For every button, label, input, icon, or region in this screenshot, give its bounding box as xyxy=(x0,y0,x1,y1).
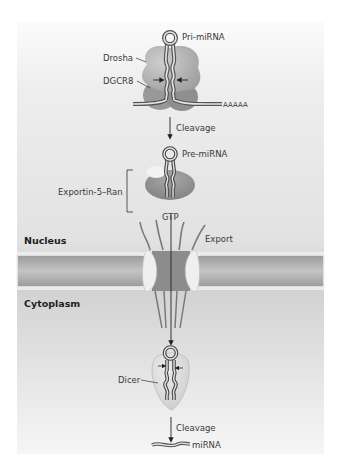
label-pre-mirna: Pre-miRNA xyxy=(182,149,227,159)
label-dgcr8: DGCR8 xyxy=(103,76,133,86)
label-cytoplasm: Cytoplasm xyxy=(24,298,80,309)
label-cleavage-2: Cleavage xyxy=(176,423,216,433)
label-gtp: GTP xyxy=(162,212,179,222)
label-mirna: miRNA xyxy=(192,440,221,450)
nuclear-envelope xyxy=(17,250,324,292)
label-pri-mirna: Pri-miRNA xyxy=(182,32,225,42)
label-cleavage-1: Cleavage xyxy=(176,123,216,133)
membrane-right xyxy=(193,255,325,287)
label-nucleus: Nucleus xyxy=(24,235,67,246)
ran-gtp-subunit xyxy=(146,166,166,178)
membrane-left xyxy=(17,255,150,287)
mirna-biogenesis-diagram: Pri-miRNA Drosha DGCR8 AAAAA Cleavage Pr… xyxy=(0,0,340,475)
label-poly-a: AAAAA xyxy=(223,101,248,109)
label-drosha: Drosha xyxy=(103,53,133,63)
label-export: Export xyxy=(205,234,233,244)
label-exportin: Exportin-5–Ran xyxy=(58,187,123,197)
label-dicer: Dicer xyxy=(118,375,141,385)
